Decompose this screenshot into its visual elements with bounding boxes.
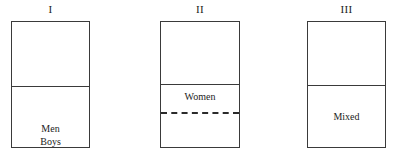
panel-iii-title: III: [307, 2, 386, 16]
panel-ii-divider-solid: [161, 84, 239, 85]
diagram-canvas: I Men Boys II Women III Mixed: [0, 0, 399, 157]
panel-iii-label-mixed: Mixed: [308, 110, 385, 123]
panel-i-divider: [12, 86, 89, 87]
panel-iii-divider: [308, 85, 385, 86]
panel-ii: II Women: [160, 0, 240, 157]
panel-i: I Men Boys: [11, 0, 90, 157]
panel-iii: III Mixed: [307, 0, 386, 157]
panel-iii-box: Mixed: [307, 21, 386, 148]
panel-ii-label-women: Women: [161, 90, 239, 103]
panel-i-box: Men Boys: [11, 21, 90, 148]
panel-ii-divider-dashed: [161, 112, 239, 114]
panel-i-label-men: Men: [12, 122, 89, 135]
panel-ii-title: II: [160, 2, 240, 16]
panel-i-label-boys: Boys: [12, 135, 89, 148]
panel-i-title: I: [11, 2, 90, 16]
panel-ii-box: Women: [160, 21, 240, 148]
